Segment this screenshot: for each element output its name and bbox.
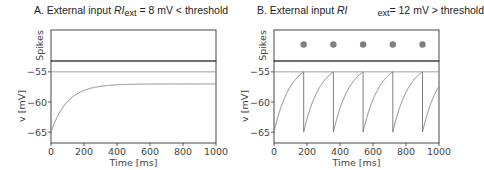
y-tick-label: −60: [250, 97, 270, 108]
spikes-axes-frame: [274, 30, 439, 61]
x-tick-label: 400: [108, 146, 126, 157]
x-tick-label: 800: [397, 146, 415, 157]
x-tick-label: 0: [48, 146, 54, 157]
y-tick-label: −55: [27, 66, 47, 77]
x-tick-label: 800: [174, 146, 192, 157]
x-tick-label: 1000: [427, 146, 451, 157]
y-tick-label: −65: [250, 127, 270, 138]
y-tick-label: −65: [27, 127, 47, 138]
x-tick-label: 600: [141, 146, 159, 157]
spike-dot: [301, 41, 307, 47]
x-tick-label: 0: [271, 146, 277, 157]
spike-dot: [330, 41, 336, 47]
spikes-ylabel: Spikes: [257, 30, 268, 61]
y-tick-label: −60: [27, 97, 47, 108]
voltage-ylabel: v [mV]: [16, 90, 27, 122]
voltage-axes-frame: [274, 61, 439, 143]
spikes-axes-frame: [51, 30, 216, 61]
spike-dot: [390, 41, 396, 47]
x-tick-label: 200: [75, 146, 93, 157]
membrane-potential-trace: [51, 84, 216, 132]
x-tick-label: 200: [298, 146, 316, 157]
spike-dot: [419, 41, 425, 47]
panel-a: Spikes−55−60−65v [mV]02004006008001000Ti…: [16, 30, 228, 168]
membrane-potential-trace: [274, 72, 439, 132]
spike-dot: [360, 41, 366, 47]
x-tick-label: 600: [364, 146, 382, 157]
x-tick-label: 400: [331, 146, 349, 157]
y-tick-label: −55: [250, 66, 270, 77]
time-xlabel: Time [ms]: [109, 157, 158, 168]
spikes-ylabel: Spikes: [34, 30, 45, 61]
x-tick-label: 1000: [204, 146, 228, 157]
voltage-ylabel: v [mV]: [239, 90, 250, 122]
voltage-axes-frame: [51, 61, 216, 143]
time-xlabel: Time [ms]: [332, 157, 381, 168]
panel-b: Spikes−55−60−65v [mV]02004006008001000Ti…: [239, 30, 451, 168]
